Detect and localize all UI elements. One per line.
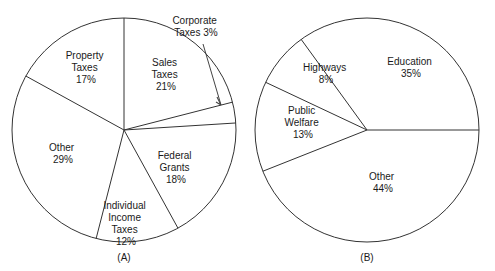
label-individual-income-taxes-line2: Income [108,212,141,223]
label-highways-line1: Highways [303,62,346,73]
label-individual-income-taxes-value: 12% [116,236,136,247]
pie-chart-b [255,18,479,242]
label-other-a: Other 29% [49,142,77,165]
figure-svg: Corporate Taxes 3% Sales Taxes 21% Prope… [0,0,495,271]
label-public-welfare-value: 13% [293,129,313,140]
label-other-b: Other 44% [369,171,397,194]
label-individual-income-taxes-line1: Individual [103,200,145,211]
label-individual-income-taxes-line3: Taxes [112,224,138,235]
label-other-a-line1: Other [49,142,75,153]
caption-b: (B) [360,252,373,263]
label-federal-grants-line2: Grants [160,162,190,173]
label-other-b-value: 44% [373,183,393,194]
label-sales-taxes-line1: Sales [152,57,177,68]
label-other-b-line1: Other [369,171,395,182]
corporate-taxes-line1: Corporate [172,15,217,26]
caption-a: (A) [117,252,130,263]
label-other-a-value: 29% [53,154,73,165]
pie-chart-figure: Corporate Taxes 3% Sales Taxes 21% Prope… [0,0,495,271]
label-property-taxes-line2: Taxes [72,62,98,73]
label-federal-grants-value: 18% [166,174,186,185]
label-sales-taxes-value: 21% [156,81,176,92]
label-public-welfare-line1: Public [288,105,315,116]
label-property-taxes-value: 17% [76,74,96,85]
label-education-line1: Education [387,56,431,67]
corporate-taxes-label: Corporate Taxes 3% [172,15,219,38]
label-public-welfare-line2: Welfare [284,117,319,128]
corporate-taxes-line2: Taxes 3% [174,27,217,38]
label-federal-grants-line1: Federal [158,150,192,161]
label-property-taxes-line1: Property [66,50,104,61]
label-highways-value: 8% [319,74,334,85]
label-education-value: 35% [401,68,421,79]
label-sales-taxes-line2: Taxes [152,69,178,80]
